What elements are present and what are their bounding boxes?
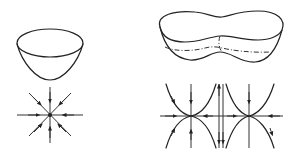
stable-node-portrait	[17, 87, 83, 143]
figure-canvas	[0, 0, 293, 162]
node-center-point	[48, 113, 52, 117]
double-attractor-portrait	[160, 84, 283, 148]
diagram-svg	[0, 0, 293, 162]
bowl-surface	[17, 29, 83, 80]
double-well-surface	[159, 11, 283, 62]
